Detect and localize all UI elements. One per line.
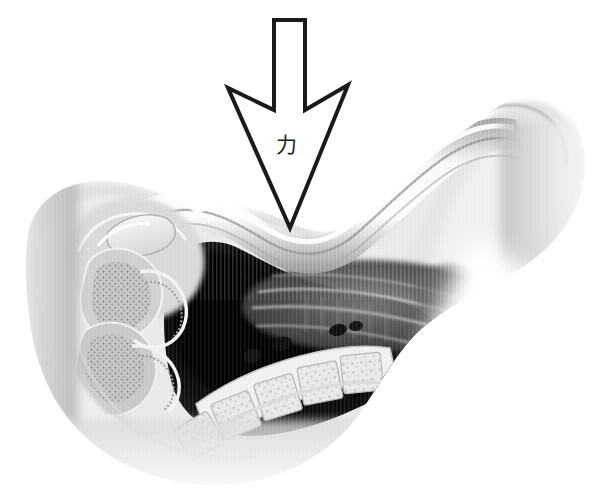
anatomical-figure: 力 xyxy=(0,0,605,494)
anatomy-illustration xyxy=(0,0,605,494)
